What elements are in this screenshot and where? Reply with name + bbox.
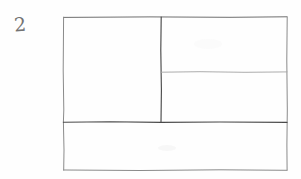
region-right-top[interactable] bbox=[161, 17, 287, 72]
region-left-large[interactable] bbox=[63, 17, 161, 122]
region-bottom-full-width[interactable] bbox=[63, 122, 287, 170]
figure-label: 2 bbox=[7, 10, 33, 38]
sketch-root: 2 bbox=[0, 0, 301, 179]
region-right-bottom[interactable] bbox=[161, 72, 287, 122]
